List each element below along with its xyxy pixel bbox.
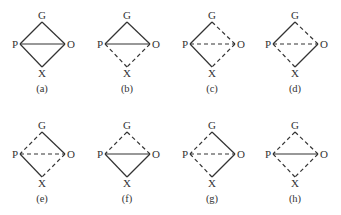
node-o-label: O [320,148,328,160]
node-g-label: G [123,9,131,21]
edge-ox [212,154,235,177]
node-p-label: P [12,38,18,50]
edge-ox [212,44,235,67]
node-g-label: G [38,119,46,131]
edge-gp [190,132,212,154]
node-x-label: X [208,67,216,79]
edge-px [20,44,42,67]
edge-ox [295,154,318,177]
edge-ox [42,44,65,67]
edge-gp [20,22,42,44]
node-p-label: P [97,38,103,50]
edge-gp [20,132,42,154]
graph-diagram: GPOX(h) [265,119,328,205]
edge-gp [190,22,212,44]
node-o-label: O [237,148,245,160]
node-x-label: X [38,67,46,79]
edge-ox [295,44,318,67]
diagram-caption: (f) [122,193,133,205]
node-p-label: P [182,38,188,50]
edge-ox [42,154,65,177]
graph-diagram: GPOX(f) [97,119,160,205]
edge-go [42,22,65,44]
node-x-label: X [123,177,131,189]
edge-px [105,154,127,177]
edge-px [20,154,42,177]
edge-px [190,154,212,177]
edge-gp [273,132,295,154]
edge-gp [105,22,127,44]
node-x-label: X [38,177,46,189]
graph-diagram: GPOX(d) [265,9,328,95]
edge-go [212,22,235,44]
diagram-caption: (c) [206,83,218,95]
node-x-label: X [291,177,299,189]
edge-go [127,22,150,44]
diagram-caption: (h) [289,193,302,205]
node-o-label: O [67,148,75,160]
node-g-label: G [291,119,299,131]
diagram-caption: (b) [121,83,134,95]
node-g-label: G [123,119,131,131]
graph-diagram: GPOX(a) [12,9,75,95]
edge-gp [273,22,295,44]
edge-ox [127,154,150,177]
node-x-label: X [208,177,216,189]
node-x-label: X [123,67,131,79]
node-g-label: G [291,9,299,21]
node-o-label: O [152,148,160,160]
edge-go [42,132,65,154]
edge-go [212,132,235,154]
node-p-label: P [265,148,271,160]
graph-diagram: GPOX(g) [182,119,245,205]
edge-gp [105,132,127,154]
node-x-label: X [291,67,299,79]
node-p-label: P [182,148,188,160]
graph-diagram: GPOX(c) [182,9,245,95]
edge-px [105,44,127,67]
graph-diagram: GPOX(b) [97,9,160,95]
edge-px [273,44,295,67]
node-p-label: P [265,38,271,50]
node-g-label: G [208,9,216,21]
diagram-canvas: GPOX(a)GPOX(b)GPOX(c)GPOX(d)GPOX(e)GPOX(… [0,0,341,215]
node-o-label: O [152,38,160,50]
node-p-label: P [97,148,103,160]
edge-px [190,44,212,67]
edge-go [295,22,318,44]
node-g-label: G [208,119,216,131]
node-o-label: O [320,38,328,50]
node-o-label: O [237,38,245,50]
node-o-label: O [67,38,75,50]
edge-ox [127,44,150,67]
diagram-caption: (d) [289,83,302,95]
edge-go [295,132,318,154]
node-p-label: P [12,148,18,160]
edge-px [273,154,295,177]
diagram-caption: (a) [36,83,48,95]
diagram-caption: (g) [206,193,219,205]
graph-diagram: GPOX(e) [12,119,75,205]
edge-go [127,132,150,154]
node-g-label: G [38,9,46,21]
diagram-caption: (e) [36,193,48,205]
